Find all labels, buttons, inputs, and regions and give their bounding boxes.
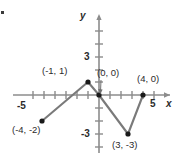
data-polyline — [42, 82, 143, 134]
data-point-4-0 — [140, 92, 145, 97]
data-point-neg1-1 — [85, 79, 90, 84]
point-label-neg1-1: (-1, 1) — [42, 66, 67, 76]
x-axis-label: x — [166, 99, 172, 109]
y-tick-label-3: 3 — [84, 52, 90, 62]
point-label-0-0: (0, 0) — [97, 68, 119, 78]
x-tick-label-5: 5 — [150, 99, 156, 109]
x-axis-arrowhead-icon — [164, 92, 170, 97]
x-tick-label-neg5: -5 — [17, 101, 26, 111]
data-point-neg4-neg2 — [39, 118, 44, 123]
data-point-3-neg3 — [125, 131, 130, 136]
coordinate-graph-figure: y x -5 5 3 -3 (-1, 1) (0, 0) (4, 0) (-4,… — [0, 0, 178, 166]
y-axis-label: y — [80, 11, 86, 21]
point-label-neg4-neg2: (-4, -2) — [12, 125, 41, 135]
y-tick-label-neg3: -3 — [81, 129, 90, 139]
y-axis-arrowhead-icon — [96, 14, 101, 20]
point-label-4-0: (4, 0) — [137, 74, 159, 84]
point-label-3-neg3: (3, -3) — [112, 140, 137, 150]
